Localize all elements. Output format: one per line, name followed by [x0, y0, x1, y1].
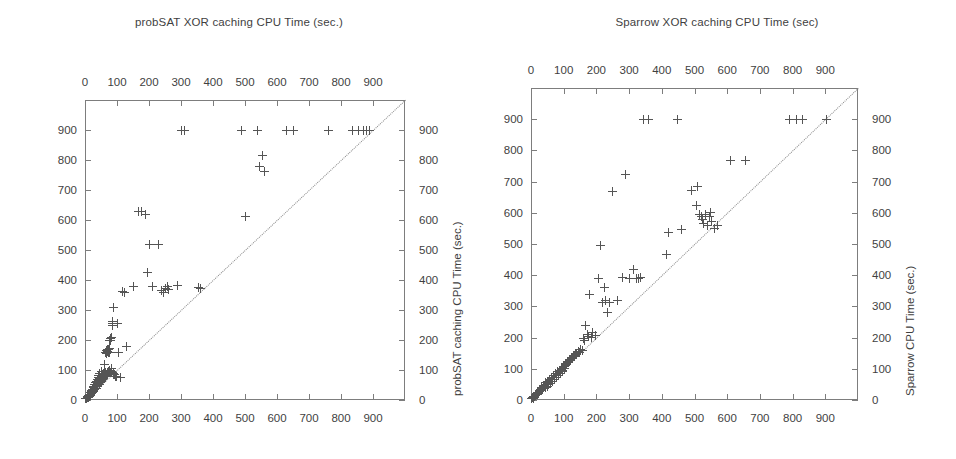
x-tick-bottom — [181, 394, 182, 400]
x-tick-bottom — [373, 394, 374, 400]
y-tick-label-left-600: 600 — [483, 207, 523, 219]
x-tick-label-top-100: 100 — [107, 76, 126, 88]
x-tick-label-top-400: 400 — [203, 76, 222, 88]
y-tick-label-right-100: 100 — [419, 364, 438, 376]
y-tick-right — [852, 150, 858, 151]
y-tick-label-right-900: 900 — [872, 113, 891, 125]
y-tick-label-right-700: 700 — [872, 176, 891, 188]
x-tick-label-bottom-0: 0 — [528, 412, 534, 424]
y-tick-left — [531, 369, 537, 370]
y-tick-label-right-400: 400 — [419, 274, 438, 286]
x-tick-bottom — [245, 394, 246, 400]
chart-title-left: probSAT XOR caching CPU Time (sec.) — [0, 16, 478, 28]
y-tick-right — [852, 369, 858, 370]
x-tick-label-top-100: 100 — [554, 64, 573, 76]
x-tick-label-top-900: 900 — [363, 76, 382, 88]
x-tick-label-bottom-700: 700 — [299, 412, 318, 424]
x-tick-top — [341, 100, 342, 106]
y-tick-left — [85, 220, 91, 221]
chart-title-right: Sparrow XOR caching CPU Time (sec) — [478, 16, 956, 28]
x-tick-bottom — [277, 394, 278, 400]
x-tick-label-bottom-200: 200 — [587, 412, 606, 424]
y-tick-left — [531, 275, 537, 276]
x-tick-label-top-700: 700 — [299, 76, 318, 88]
y-tick-label-right-0: 0 — [419, 394, 425, 406]
x-tick-top — [695, 88, 696, 94]
y-tick-label-left-0: 0 — [37, 394, 77, 406]
y-tick-right — [399, 340, 405, 341]
x-tick-top — [149, 100, 150, 106]
y-tick-right — [399, 250, 405, 251]
x-tick-top — [277, 100, 278, 106]
y-tick-label-left-300: 300 — [483, 300, 523, 312]
y-tick-right — [852, 400, 858, 401]
y-tick-left — [85, 250, 91, 251]
x-tick-label-top-400: 400 — [652, 64, 671, 76]
y-tick-left — [85, 370, 91, 371]
x-tick-label-top-0: 0 — [82, 76, 88, 88]
x-tick-label-bottom-800: 800 — [331, 412, 350, 424]
y-tick-label-left-500: 500 — [483, 238, 523, 250]
x-tick-bottom — [793, 394, 794, 400]
x-tick-top — [309, 100, 310, 106]
y-tick-label-right-400: 400 — [872, 269, 891, 281]
y-tick-label-right-600: 600 — [872, 207, 891, 219]
x-tick-label-top-800: 800 — [331, 76, 350, 88]
y-tick-label-left-200: 200 — [483, 332, 523, 344]
y-tick-label-right-500: 500 — [872, 238, 891, 250]
x-tick-bottom — [825, 394, 826, 400]
y-tick-label-left-800: 800 — [483, 144, 523, 156]
y-tick-label-left-600: 600 — [37, 214, 77, 226]
y-tick-label-left-100: 100 — [37, 364, 77, 376]
x-tick-label-top-900: 900 — [816, 64, 835, 76]
x-tick-top — [760, 88, 761, 94]
y-tick-label-left-700: 700 — [37, 184, 77, 196]
x-tick-label-top-200: 200 — [587, 64, 606, 76]
y-tick-left — [531, 119, 537, 120]
y-tick-label-left-400: 400 — [37, 274, 77, 286]
y-tick-right — [399, 310, 405, 311]
x-tick-label-top-0: 0 — [528, 64, 534, 76]
x-tick-label-top-600: 600 — [267, 76, 286, 88]
x-tick-top — [373, 100, 374, 106]
y-tick-left — [85, 310, 91, 311]
x-tick-label-bottom-400: 400 — [652, 412, 671, 424]
x-tick-top — [245, 100, 246, 106]
y-tick-label-right-900: 900 — [419, 124, 438, 136]
y-tick-label-right-500: 500 — [419, 244, 438, 256]
y-tick-right — [852, 119, 858, 120]
x-tick-label-bottom-800: 800 — [783, 412, 802, 424]
y-tick-label-right-600: 600 — [419, 214, 438, 226]
x-tick-label-bottom-600: 600 — [718, 412, 737, 424]
panel-probsat: probSAT XOR caching CPU Time (sec.) prob… — [0, 0, 478, 459]
x-tick-label-bottom-400: 400 — [203, 412, 222, 424]
x-tick-bottom — [149, 394, 150, 400]
y-tick-right — [852, 275, 858, 276]
x-tick-label-top-700: 700 — [750, 64, 769, 76]
x-tick-label-bottom-500: 500 — [685, 412, 704, 424]
plot-area-right — [531, 88, 858, 400]
x-tick-top — [596, 88, 597, 94]
y-axis-title-right: Sparrow CPU Time (sec.) — [904, 266, 916, 396]
scatter-plot-figure: probSAT XOR caching CPU Time (sec.) prob… — [0, 0, 956, 459]
y-tick-left — [531, 150, 537, 151]
panel-sparrow: Sparrow XOR caching CPU Time (sec) Sparr… — [478, 0, 956, 459]
x-tick-bottom — [564, 394, 565, 400]
x-tick-bottom — [341, 394, 342, 400]
y-tick-left — [531, 213, 537, 214]
x-tick-bottom — [727, 394, 728, 400]
x-tick-bottom — [629, 394, 630, 400]
y-tick-left — [85, 190, 91, 191]
y-tick-left — [85, 160, 91, 161]
x-tick-top — [662, 88, 663, 94]
x-tick-top — [793, 88, 794, 94]
y-tick-left — [85, 340, 91, 341]
y-tick-left — [85, 280, 91, 281]
y-tick-right — [399, 220, 405, 221]
y-tick-right — [852, 306, 858, 307]
y-tick-right — [399, 190, 405, 191]
y-tick-label-left-500: 500 — [37, 244, 77, 256]
x-tick-top — [181, 100, 182, 106]
y-tick-label-right-200: 200 — [872, 332, 891, 344]
y-tick-left — [531, 338, 537, 339]
